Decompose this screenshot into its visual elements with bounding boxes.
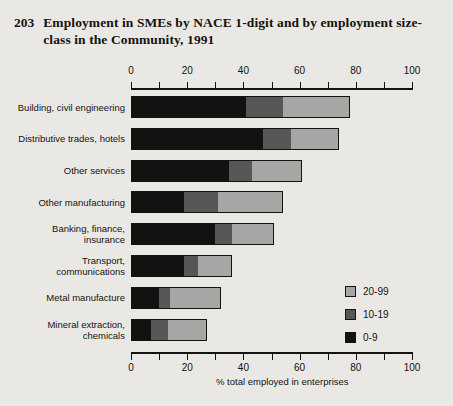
axis-tick (272, 354, 273, 360)
legend-label: 10-19 (363, 309, 389, 320)
category-label-line: Other manufacturing (3, 197, 125, 208)
axis-tick (328, 354, 329, 360)
legend-item: 10-19 (345, 303, 435, 326)
axis-tick (215, 354, 216, 360)
legend-item: 20-99 (345, 280, 435, 303)
axis-tick (300, 82, 301, 88)
axis-tick (243, 82, 244, 88)
axis-tick-label: 20 (167, 65, 207, 76)
axis-tick (159, 354, 160, 360)
category-label-line: communications (3, 266, 125, 277)
bar-segment (263, 128, 291, 150)
bar-segment (198, 255, 232, 277)
axis-tick (328, 82, 329, 88)
axis-tick (356, 82, 357, 88)
axis-tick (412, 354, 413, 360)
bar-segment (229, 160, 251, 182)
category-axis-labels: Building, civil engineeringDistributive … (0, 0, 125, 406)
plot-wrapper: 020406080100 020406080100 Building, civi… (0, 0, 453, 406)
axis-tick-label: 80 (336, 362, 376, 373)
bar-segment (170, 287, 221, 309)
axis-line-top (131, 88, 413, 90)
bar-segment (151, 319, 168, 341)
legend-swatch-icon (345, 286, 356, 297)
axis-tick-label: 40 (223, 65, 263, 76)
bar-segment (131, 255, 184, 277)
bar-segment (131, 128, 263, 150)
category-label-line: Other services (3, 165, 125, 176)
axis-tick (187, 82, 188, 88)
bar-segment (218, 191, 283, 213)
axis-tick (215, 82, 216, 88)
chart-legend: 20-9910-190-9 (345, 280, 435, 349)
bar-segment (232, 223, 274, 245)
category-label-line: Building, civil engineering (3, 102, 125, 113)
axis-tick (187, 354, 188, 360)
legend-swatch-icon (345, 332, 356, 343)
bar-segment (131, 160, 229, 182)
axis-tick (272, 82, 273, 88)
axis-tick (131, 354, 132, 360)
axis-tick (384, 354, 385, 360)
bar-segment (252, 160, 303, 182)
axis-tick (412, 82, 413, 88)
bar-segment (131, 223, 215, 245)
category-label-line: Banking, finance, (3, 223, 125, 234)
axis-tick (384, 82, 385, 88)
category-label: Banking, finance,insurance (3, 223, 125, 245)
category-label-line: chemicals (3, 330, 125, 341)
x-axis-title: % total employed in enterprises (216, 376, 349, 387)
bar-segment (283, 96, 350, 118)
axis-tick-label: 40 (223, 362, 263, 373)
axis-tick-label: 80 (336, 65, 376, 76)
category-label-line: Transport, (3, 255, 125, 266)
legend-item: 0-9 (345, 326, 435, 349)
axis-tick (300, 354, 301, 360)
category-label-line: insurance (3, 234, 125, 245)
bar-segment (131, 191, 184, 213)
bar-segment (184, 255, 198, 277)
axis-tick (243, 354, 244, 360)
category-label: Mineral extraction,chemicals (3, 319, 125, 341)
bar-segment (184, 191, 218, 213)
axis-tick-label: 60 (280, 65, 320, 76)
legend-swatch-icon (345, 309, 356, 320)
category-label-line: Distributive trades, hotels (3, 133, 125, 144)
bar-segment (131, 96, 246, 118)
axis-tick-label: 100 (392, 362, 432, 373)
axis-tick (356, 354, 357, 360)
bar-segment (131, 319, 151, 341)
bar-segment (159, 287, 170, 309)
category-label: Metal manufacture (3, 292, 125, 303)
axis-tick (131, 82, 132, 88)
category-label: Other services (3, 165, 125, 176)
bar-segment (246, 96, 283, 118)
figure-panel: 203 Employment in SMEs by NACE 1-digit a… (0, 0, 453, 406)
axis-tick-label: 20 (167, 362, 207, 373)
bar-segment (168, 319, 207, 341)
bar-segment (215, 223, 232, 245)
legend-label: 20-99 (363, 286, 389, 297)
category-label-line: Metal manufacture (3, 292, 125, 303)
legend-label: 0-9 (363, 332, 377, 343)
bar-segment (291, 128, 339, 150)
category-label: Building, civil engineering (3, 102, 125, 113)
category-label: Transport,communications (3, 255, 125, 277)
category-label-line: Mineral extraction, (3, 319, 125, 330)
category-label: Distributive trades, hotels (3, 133, 125, 144)
axis-tick-label: 100 (392, 65, 432, 76)
bar-segment (131, 287, 159, 309)
axis-tick (159, 82, 160, 88)
axis-tick-label: 60 (280, 362, 320, 373)
category-label: Other manufacturing (3, 197, 125, 208)
